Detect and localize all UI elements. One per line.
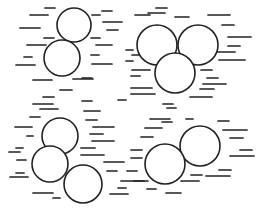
group-top-right [137,25,218,93]
bubble-circle [180,126,220,166]
bubble-diagram [0,0,263,208]
group-bottom-left [32,118,102,203]
circle-layer [32,8,220,203]
bubble-circle [57,8,91,42]
bubble-circle [44,40,80,76]
bubble-circle [155,53,195,93]
bubble-circle [145,144,185,184]
group-top-left [44,8,91,76]
diagram-svg [0,0,263,208]
bubble-circle [32,146,68,182]
bubble-circle [64,165,102,203]
